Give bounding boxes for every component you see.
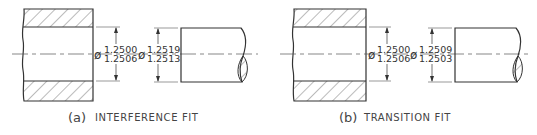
hole-lower-limit: 1.2506 — [377, 53, 410, 64]
figure-label-a: (a) — [68, 110, 86, 125]
caption-b: TRANSITION FIT — [363, 112, 451, 123]
hole-part-a — [22, 9, 93, 101]
hole-dimension-b: ø 1.2500 1.2506 — [368, 27, 410, 81]
shaft-dimension-a: ø 1.2519 1.2513 — [138, 28, 180, 82]
diameter-symbol: ø — [138, 48, 145, 62]
diameter-symbol: ø — [410, 48, 417, 62]
figure-a: ø 1.2500 1.2506 ø 1.2519 1.2513 (a) INTE… — [12, 9, 258, 125]
hole-part-b — [292, 9, 366, 101]
hole-lower-limit: 1.2506 — [104, 53, 137, 64]
shaft-b — [455, 28, 522, 82]
shaft-a — [181, 28, 247, 82]
caption-a: INTERFERENCE FIT — [95, 112, 199, 123]
figure-b: ø 1.2500 1.2506 ø 1.2509 1.2503 (b) TRAN… — [280, 9, 530, 125]
diameter-symbol: ø — [368, 48, 375, 62]
figure-label-b: (b) — [339, 110, 357, 125]
diameter-symbol: ø — [94, 48, 101, 62]
fits-diagram: ø 1.2500 1.2506 ø 1.2519 1.2513 (a) INTE… — [0, 0, 537, 135]
hole-dimension-a: ø 1.2500 1.2506 — [94, 27, 137, 81]
shaft-lower-limit: 1.2503 — [419, 53, 452, 64]
shaft-lower-limit: 1.2513 — [147, 53, 180, 64]
shaft-dimension-b: ø 1.2509 1.2503 — [410, 28, 452, 82]
